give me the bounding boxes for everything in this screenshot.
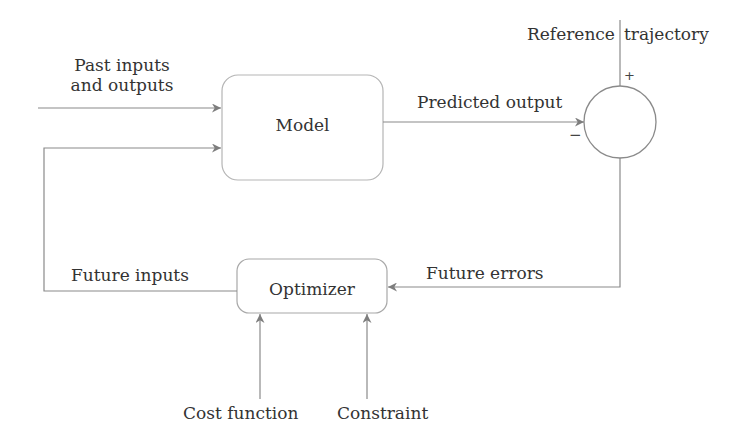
reference-label-right: trajectory	[624, 24, 709, 44]
cost-function-label: Cost function	[183, 403, 298, 423]
model-label: Model	[222, 115, 383, 135]
constraint-label: Constraint	[337, 403, 428, 423]
future-inputs-label: Future inputs	[71, 265, 189, 285]
plus-sign: +	[624, 68, 635, 83]
optimizer-label: Optimizer	[237, 279, 387, 299]
minus-sign: −	[569, 126, 582, 144]
past-io-line1: Past inputs	[58, 55, 186, 75]
past-io-label: Past inputs and outputs	[58, 55, 186, 95]
future-errors-label: Future errors	[426, 263, 544, 283]
reference-label-left: Reference	[527, 24, 615, 44]
predicted-output-label: Predicted output	[417, 92, 562, 112]
past-io-line2: and outputs	[58, 75, 186, 95]
summing-junction	[584, 86, 656, 158]
